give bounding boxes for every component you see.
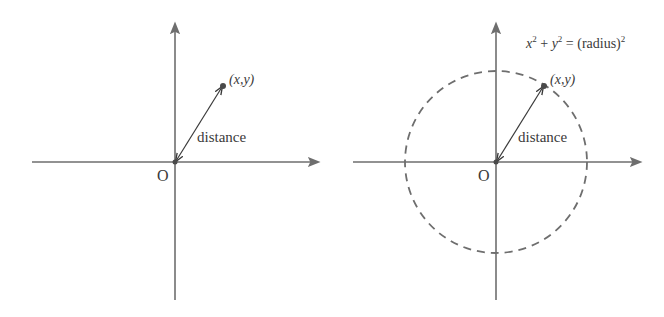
distance-diagrams: (x,y) distance O (x,y) distance O x2 + y… [0, 0, 664, 317]
right-origin-dot [494, 160, 499, 165]
eq-plus: + [537, 36, 552, 51]
left-origin-dot [173, 160, 178, 165]
right-distance-label: distance [518, 129, 567, 145]
left-distance-vector [176, 87, 222, 161]
right-point-label: (x,y) [550, 72, 576, 88]
left-point-dot [220, 83, 226, 89]
left-diagram: (x,y) distance O [32, 24, 318, 300]
circle-equation: x2 + y2 = (radius)2 [525, 34, 625, 52]
left-distance-label: distance [197, 129, 246, 145]
eq-equals: = (radius) [562, 36, 621, 52]
right-diagram: (x,y) distance O x2 + y2 = (radius)2 [353, 24, 640, 300]
eq-r-exp: 2 [621, 34, 626, 44]
right-point-dot [541, 83, 547, 89]
right-origin-label: O [478, 167, 490, 184]
left-origin-label: O [157, 167, 169, 184]
left-point-label: (x,y) [229, 72, 255, 88]
right-distance-vector [497, 87, 543, 161]
